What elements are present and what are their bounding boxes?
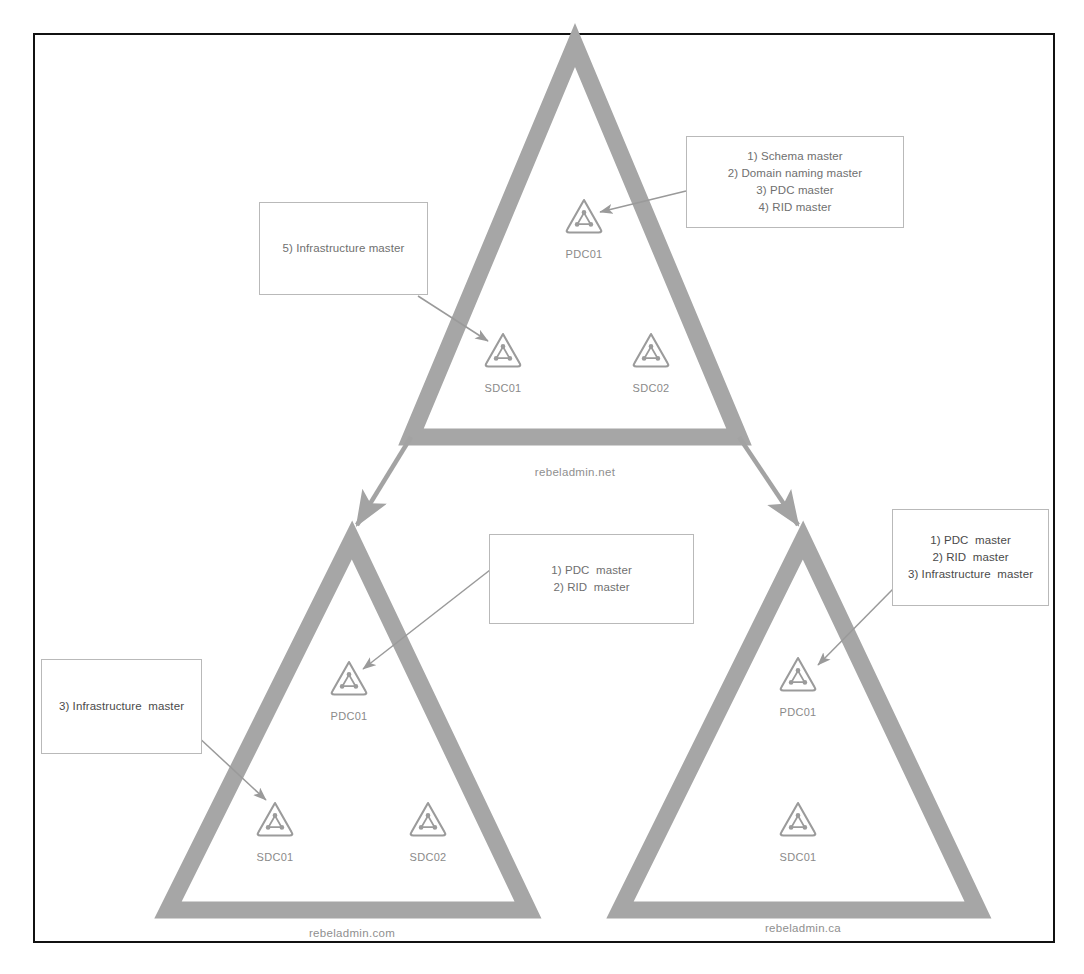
trust-arrow-root-to-com	[357, 437, 411, 525]
domain-triangle-rebeladmin-com	[168, 540, 528, 910]
domain-controller-icon[interactable]	[332, 662, 366, 695]
trust-arrow-root-to-ca	[739, 437, 798, 525]
domain-controller-icon[interactable]	[411, 803, 445, 836]
callout-com-pdc01[interactable]: 1) PDC master 2) RID master	[489, 534, 694, 624]
node-label-root-sdc02: SDC02	[633, 382, 670, 394]
callout-root-pdc01-text: 1) Schema master 2) Domain naming master…	[728, 148, 863, 216]
callout-root-sdc01-text: 5) Infrastructure master	[283, 240, 405, 257]
domain-triangle-rebeladmin-net	[411, 45, 739, 437]
domain-name-rebeladmin-net: rebeladmin.net	[535, 466, 615, 478]
domain-name-rebeladmin-com: rebeladmin.com	[309, 927, 395, 939]
callout-com-sdc01-text: 3) Infrastructure master	[59, 698, 184, 715]
node-label-root-sdc01: SDC01	[485, 382, 522, 394]
domain-controller-icon[interactable]	[567, 200, 601, 233]
callout-com-sdc01[interactable]: 3) Infrastructure master	[41, 659, 202, 754]
callout-com-pdc01-text: 1) PDC master 2) RID master	[551, 562, 632, 596]
domain-controller-icon[interactable]	[781, 658, 815, 691]
node-label-root-pdc01: PDC01	[566, 248, 603, 260]
diagram-canvas: PDC01 SDC01 SDC02 PDC01 SDC01 SDC02 PDC0…	[0, 0, 1084, 974]
node-label-com-sdc02: SDC02	[410, 851, 447, 863]
domain-controller-icon[interactable]	[486, 334, 520, 367]
callout-ca-pdc01-text: 1) PDC master 2) RID master 3) Infrastru…	[908, 532, 1033, 583]
callout-root-sdc01[interactable]: 5) Infrastructure master	[259, 202, 428, 295]
domain-controller-icon[interactable]	[634, 334, 668, 367]
callout-ca-pdc01[interactable]: 1) PDC master 2) RID master 3) Infrastru…	[892, 509, 1049, 606]
node-label-com-pdc01: PDC01	[331, 710, 368, 722]
callout-root-pdc01[interactable]: 1) Schema master 2) Domain naming master…	[686, 136, 904, 228]
domain-controller-icon[interactable]	[258, 803, 292, 836]
node-label-ca-pdc01: PDC01	[780, 706, 817, 718]
domain-controller-icon[interactable]	[781, 803, 815, 836]
domain-name-rebeladmin-ca: rebeladmin.ca	[765, 922, 841, 934]
diagram-shapes	[0, 0, 1084, 974]
node-label-ca-sdc01: SDC01	[780, 851, 817, 863]
node-label-com-sdc01: SDC01	[257, 851, 294, 863]
